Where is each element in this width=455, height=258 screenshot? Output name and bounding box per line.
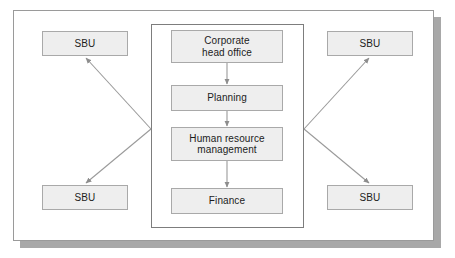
diagram-canvas: Corporate head office Planning Human res… xyxy=(0,0,455,258)
node-planning: Planning xyxy=(171,85,283,111)
node-sbu-bottom-left: SBU xyxy=(42,185,128,210)
node-human-resource-management: Human resource management xyxy=(171,127,283,161)
node-finance: Finance xyxy=(171,188,283,214)
node-corporate-head-office: Corporate head office xyxy=(171,30,283,63)
node-sbu-top-left: SBU xyxy=(42,31,128,56)
node-sbu-top-right: SBU xyxy=(327,31,413,56)
node-sbu-bottom-right: SBU xyxy=(327,185,413,210)
